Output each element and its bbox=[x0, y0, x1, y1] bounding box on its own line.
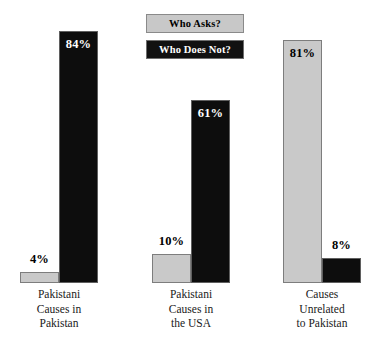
bar-group-bars: 10% 61% bbox=[152, 28, 230, 283]
bar-slot-who-does-not: 61% bbox=[191, 28, 230, 283]
bar-who-asks bbox=[20, 272, 59, 283]
category-label-line: the USA bbox=[131, 316, 251, 331]
bar-value-label-who-asks: 81% bbox=[284, 46, 321, 61]
bar-who-does-not bbox=[322, 258, 361, 283]
category-label-line: Causes in bbox=[0, 302, 119, 317]
bar-value-label-who-asks: 4% bbox=[20, 252, 59, 267]
category-label-causes-unrelated-to-pakistan: Causes Unrelated to Pakistan bbox=[262, 287, 382, 331]
bar-group-causes-unrelated-to-pakistan: 81% 8% bbox=[283, 28, 361, 283]
category-label-pakistani-causes-in-the-usa: Pakistani Causes in the USA bbox=[131, 287, 251, 331]
bar-group-bars: 4% 84% bbox=[20, 28, 98, 283]
bar-slot-who-asks: 10% bbox=[152, 28, 191, 283]
category-label-line: Causes bbox=[262, 287, 382, 302]
category-label-pakistani-causes-in-pakistan: Pakistani Causes in Pakistan bbox=[0, 287, 119, 331]
bar-group-bars: 81% 8% bbox=[283, 28, 361, 283]
bar-who-does-not: 84% bbox=[59, 31, 98, 283]
category-label-line: Causes in bbox=[131, 302, 251, 317]
bar-value-label-who-does-not: 61% bbox=[192, 106, 229, 121]
bar-group-pakistani-causes-in-pakistan: 4% 84% bbox=[20, 28, 98, 283]
bar-value-label-who-does-not: 8% bbox=[322, 238, 361, 253]
bar-value-label-who-asks: 10% bbox=[152, 234, 191, 249]
bar-value-label-who-does-not: 84% bbox=[60, 37, 97, 52]
bar-slot-who-does-not: 8% bbox=[322, 28, 361, 283]
category-label-line: Pakistan bbox=[0, 316, 119, 331]
category-label-line: Unrelated bbox=[262, 302, 382, 317]
category-label-line: to Pakistan bbox=[262, 316, 382, 331]
bar-slot-who-asks: 4% bbox=[20, 28, 59, 283]
bar-slot-who-asks: 81% bbox=[283, 28, 322, 283]
grouped-bar-chart: Who Asks? Who Does Not? 4% 84% 10% bbox=[0, 0, 385, 350]
category-label-line: Pakistani bbox=[0, 287, 119, 302]
bar-who-asks bbox=[152, 254, 191, 283]
category-label-line: Pakistani bbox=[131, 287, 251, 302]
bar-who-does-not: 61% bbox=[191, 100, 230, 283]
bar-who-asks: 81% bbox=[283, 40, 322, 283]
bar-group-pakistani-causes-in-the-usa: 10% 61% bbox=[152, 28, 230, 283]
bar-slot-who-does-not: 84% bbox=[59, 28, 98, 283]
